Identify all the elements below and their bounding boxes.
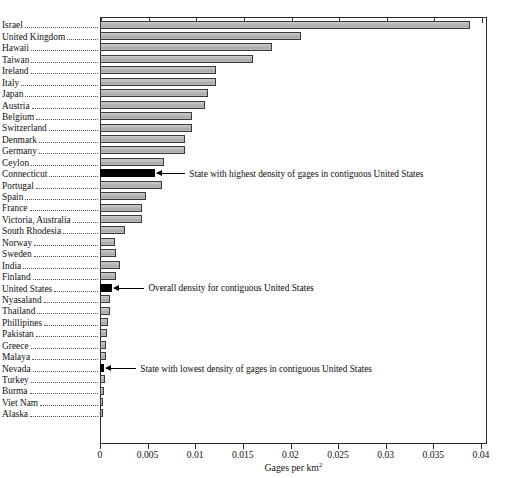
chart-row: Portugal [0, 179, 509, 190]
category-label-group: Taiwan [2, 53, 98, 64]
dotted-leader [23, 267, 98, 269]
annotation-arrow-icon [106, 368, 136, 369]
chart-row: Hawaii [0, 42, 509, 53]
bar-track [100, 249, 116, 257]
bar-track [100, 112, 192, 120]
dotted-leader [73, 221, 98, 223]
category-label: South Rhodesia [2, 226, 63, 236]
category-label: Switzerland [2, 123, 49, 133]
chart-row: Sweden [0, 248, 509, 259]
category-label: Connecticut [2, 169, 49, 179]
dotted-leader [31, 61, 98, 63]
dotted-leader [36, 335, 98, 337]
category-label-group: Germany [2, 145, 98, 156]
category-label-group: Israel [2, 19, 98, 30]
category-label: Pakistan [2, 329, 36, 339]
x-tick-label: 0 [98, 449, 103, 461]
dotted-leader [33, 278, 98, 280]
category-label: Austria [2, 101, 32, 111]
dotted-leader [21, 84, 98, 86]
x-axis-title: Gages per km2 [100, 461, 487, 473]
category-label: Denmark [2, 135, 39, 145]
category-label: Thailand [2, 306, 37, 316]
chart-row: Norway [0, 236, 509, 247]
bar [100, 135, 185, 143]
chart-row: Ireland [0, 65, 509, 76]
bar [100, 204, 142, 212]
chart-row: United Kingdom [0, 30, 509, 41]
bar-track [100, 215, 142, 223]
bar-track [100, 375, 105, 383]
dotted-leader [31, 72, 98, 74]
bar-track [100, 307, 110, 315]
chart-row: Victoria, Australia [0, 213, 509, 224]
category-label-group: Malaya [2, 351, 98, 362]
bar-track [100, 124, 192, 132]
chart-row: Pakistan [0, 328, 509, 339]
bar-track [100, 78, 216, 86]
bar [100, 307, 110, 315]
bar-track [100, 89, 208, 97]
bar-track [100, 238, 115, 246]
bar [100, 181, 162, 189]
dotted-leader [32, 107, 98, 109]
dotted-leader [25, 198, 98, 200]
bar-track [100, 295, 110, 303]
bar-highlighted [100, 284, 112, 292]
category-label-group: Italy [2, 76, 98, 87]
dotted-leader [54, 290, 98, 292]
dotted-leader [32, 358, 98, 360]
chart-row: France [0, 202, 509, 213]
bar-track [100, 146, 185, 154]
category-label: Israel [2, 20, 25, 30]
category-label: Spain [2, 192, 25, 202]
category-label: Ireland [2, 66, 31, 76]
dotted-leader [39, 152, 98, 154]
category-label: Phillipines [2, 318, 44, 328]
chart-row: Ceylon [0, 156, 509, 167]
bar [100, 341, 106, 349]
bar-track [100, 352, 106, 360]
dotted-leader [67, 38, 98, 40]
dotted-leader [25, 26, 98, 28]
category-label-group: Hawaii [2, 42, 98, 53]
dotted-leader [44, 324, 98, 326]
bar [100, 21, 470, 29]
bar [100, 387, 104, 395]
category-label-group: Nevada [2, 362, 98, 373]
bar [100, 238, 115, 246]
chart-row: Turkey [0, 374, 509, 385]
category-label: Nyasaland [2, 295, 44, 305]
bar [100, 158, 164, 166]
chart-row: South Rhodesia [0, 225, 509, 236]
dotted-leader [31, 49, 98, 51]
chart-row: Thailand [0, 305, 509, 316]
chart-row: Italy [0, 76, 509, 87]
bar-track [100, 341, 106, 349]
x-axis-title-exponent: 2 [319, 461, 323, 469]
category-label: Turkey [2, 375, 31, 385]
bar [100, 43, 272, 51]
x-tick-label: 0.03 [377, 449, 394, 461]
bar [100, 409, 103, 417]
category-label-group: Ceylon [2, 156, 98, 167]
bar-track [100, 318, 108, 326]
category-label-group: Viet Nam [2, 396, 98, 407]
bar-track [100, 364, 104, 372]
category-label-group: Pakistan [2, 328, 98, 339]
category-label-group: Nyasaland [2, 294, 98, 305]
category-label-group: Finland [2, 271, 98, 282]
bar [100, 272, 116, 280]
chart-row: Nyasaland [0, 294, 509, 305]
bar-track [100, 284, 112, 292]
category-label: France [2, 203, 30, 213]
bar [100, 192, 146, 200]
category-label: Viet Nam [2, 398, 40, 408]
category-label-group: United Kingdom [2, 30, 98, 41]
dotted-leader [34, 244, 98, 246]
chart-rows: IsraelUnited KingdomHawaiiTaiwanIrelandI… [0, 19, 509, 419]
bar [100, 318, 108, 326]
bar [100, 89, 208, 97]
bar-track [100, 398, 103, 406]
bar-track [100, 181, 162, 189]
